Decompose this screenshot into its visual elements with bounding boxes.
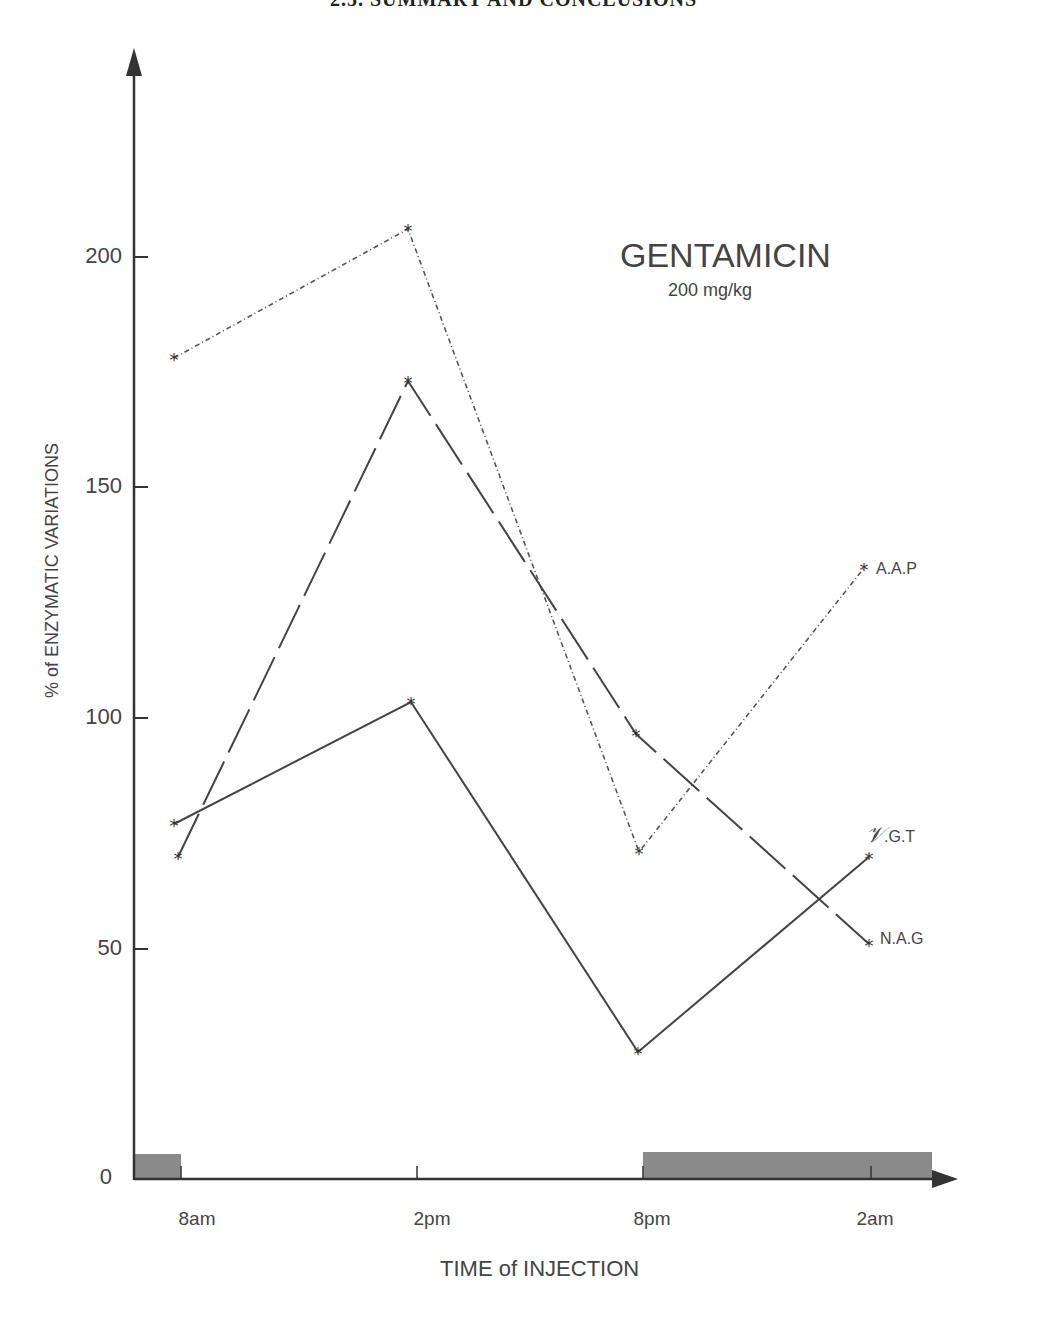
x-tick-label: 8pm [612,1208,692,1230]
y-tick-label: 150 [62,473,122,499]
data-point-marker: * [865,935,874,956]
data-point-marker: * [170,815,179,836]
chart-canvas: * * * * * * * * * * * * [0,0,1043,1320]
x-tick-label: 8am [157,1208,237,1230]
x-axis-label: TIME of INJECTION [440,1256,639,1282]
y-axis-label: % of ENZYMATIC VARIATIONS [42,441,63,701]
series-label-ggt: 𝒱.G.T [866,822,915,847]
y-tick-label: 50 [62,935,122,961]
data-point-marker: * [632,725,641,746]
data-point-marker: * [174,848,183,869]
data-point-marker: * [635,843,644,864]
y-tick-label: 200 [62,243,122,269]
series-label-nag: N.A.G [880,930,924,948]
x-axis-arrow-icon [932,1170,958,1188]
y-tick-label: 0 [52,1164,112,1190]
dark-period-bar [643,1152,932,1178]
x-tick-label: 2pm [392,1208,472,1230]
data-point-marker: * [407,693,416,714]
data-point-marker: * [404,372,413,393]
data-point-marker: * [860,559,869,580]
series-aap-line [174,229,864,852]
chart-title: GENTAMICIN [620,236,831,275]
series-ggt-line [174,702,869,1052]
y-axis-arrow-icon [126,48,142,76]
data-point-marker: * [404,220,413,241]
data-point-marker: * [634,1043,643,1064]
series-label-aap: A.A.P [876,560,917,578]
series-nag-line [178,381,869,944]
x-tick-label: 2am [835,1208,915,1230]
y-tick-label: 100 [62,704,122,730]
chart-subtitle: 200 mg/kg [668,280,752,301]
data-point-marker: * [170,349,179,370]
data-point-marker: * [865,848,874,869]
dark-period-bar [135,1154,181,1178]
